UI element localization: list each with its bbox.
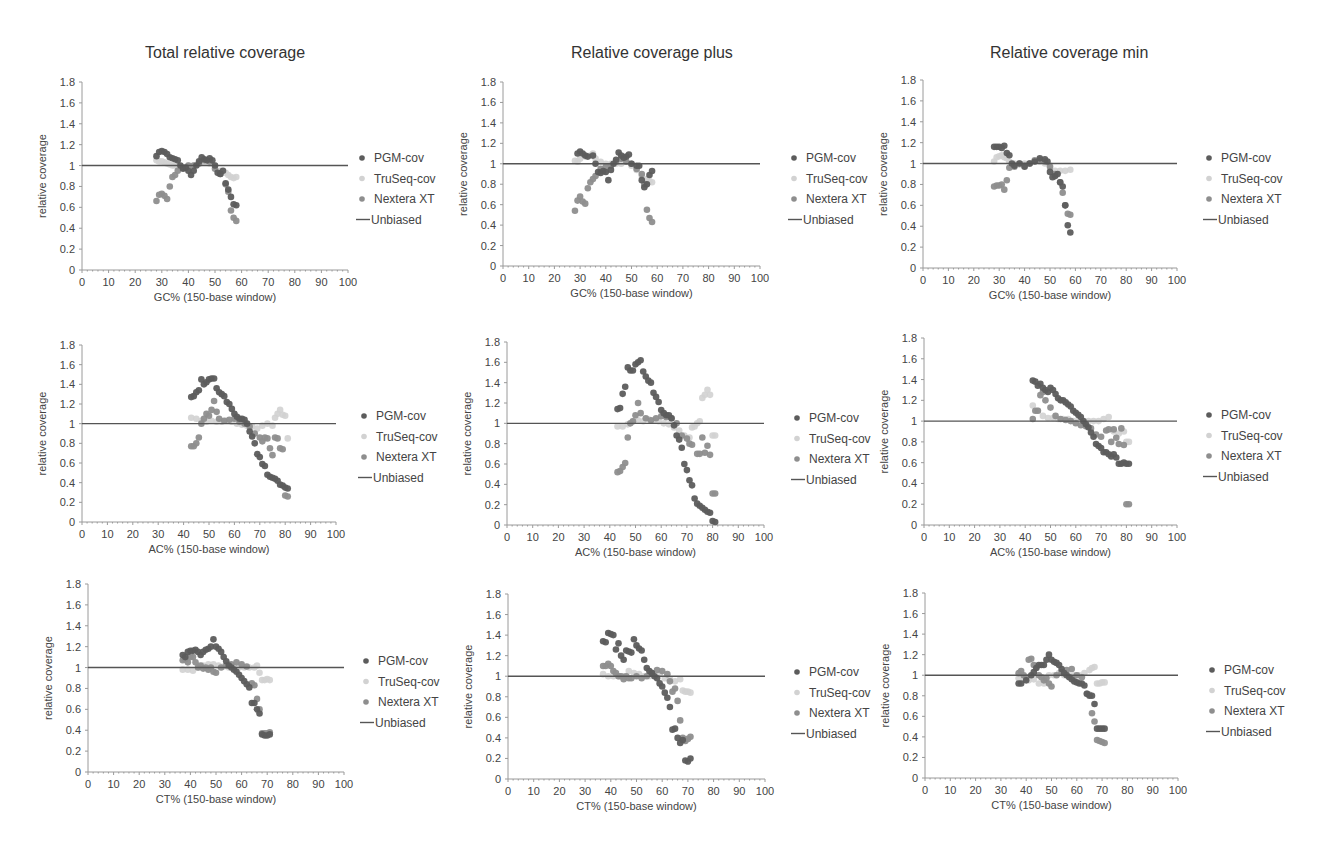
x-axis-label: CT% (150-base window): [156, 793, 276, 805]
y-tick-label: 1.2: [902, 394, 917, 406]
legend-label: PGM-cov: [1221, 151, 1271, 165]
y-tick-label: 0.8: [60, 180, 75, 192]
y-axis-label: relative coverage: [461, 392, 473, 476]
y-tick-label: 1.8: [66, 578, 81, 590]
y-tick-label: 0.4: [901, 220, 916, 232]
y-tick-label: 1.8: [901, 74, 916, 86]
x-axis-label: AC% (150-base window): [148, 543, 269, 555]
y-tick-label: 1.8: [481, 76, 496, 88]
x-tick-label: 60: [1069, 274, 1081, 286]
legend-marker-icon: [791, 155, 797, 161]
y-axis-label: relative coverage: [879, 644, 891, 728]
y-tick-label: 1.2: [903, 649, 918, 661]
y-tick-label: 1: [490, 158, 496, 170]
x-tick-label: 80: [1120, 274, 1132, 286]
y-tick-label: 1.4: [903, 628, 918, 640]
legend: PGM-covTruSeq-covNextera XTUnbiased: [788, 151, 868, 227]
y-axis-label: relative coverage: [457, 132, 469, 216]
x-tick-label: 20: [127, 528, 139, 540]
x-tick-label: 20: [552, 531, 564, 543]
y-tick-label: 1.8: [60, 76, 75, 88]
x-tick-label: 60: [235, 276, 247, 288]
x-tick-label: 40: [1019, 531, 1031, 543]
y-tick-label: 1.8: [486, 588, 501, 600]
x-tick-label: 0: [921, 531, 927, 543]
y-tick-label: 1: [69, 418, 75, 430]
x-tick-label: 80: [1121, 784, 1133, 796]
x-tick-label: 60: [228, 528, 240, 540]
legend: PGM-covTruSeq-covNextera XTUnbiased: [356, 151, 436, 227]
x-tick-label: 20: [968, 274, 980, 286]
y-tick-label: 1.6: [902, 353, 917, 365]
y-tick-label: 0: [495, 773, 501, 785]
x-tick-label: 90: [1147, 784, 1159, 796]
y-tick-label: 1.6: [903, 608, 918, 620]
chart-ct-min-plot: 00.20.40.60.811.21.41.61.801020304050607…: [879, 587, 1286, 811]
x-tick-label: 30: [156, 276, 168, 288]
y-tick-label: 0.4: [66, 724, 81, 736]
y-tick-label: 1.6: [66, 599, 81, 611]
x-tick-label: 20: [968, 531, 980, 543]
x-tick-label: 70: [261, 778, 273, 790]
x-tick-label: 60: [1071, 784, 1083, 796]
x-tick-label: 70: [677, 272, 689, 284]
legend-label: Unbiased: [373, 471, 424, 485]
y-tick-label: 0.2: [60, 496, 75, 508]
y-tick-label: 0.2: [902, 498, 917, 510]
legend-label: PGM-cov: [809, 665, 859, 679]
legend-label: Unbiased: [806, 473, 857, 487]
x-tick-label: 40: [177, 528, 189, 540]
x-tick-label: 90: [733, 785, 745, 797]
y-axis-label: relative coverage: [877, 132, 889, 216]
legend: PGM-covTruSeq-covNextera XTUnbiased: [360, 654, 440, 730]
x-tick-label: 10: [942, 274, 954, 286]
y-tick-label: 0.8: [903, 690, 918, 702]
legend-label: TruSeq-cov: [1221, 172, 1283, 186]
x-tick-label: 40: [182, 276, 194, 288]
y-tick-label: 1.2: [485, 397, 500, 409]
legend-label: PGM-cov: [809, 411, 859, 425]
y-tick-label: 0.2: [486, 752, 501, 764]
y-tick-label: 1.8: [902, 332, 917, 344]
x-tick-label: 70: [681, 531, 693, 543]
y-tick-label: 1.2: [486, 650, 501, 662]
y-tick-label: 1.4: [60, 118, 75, 130]
chart-gc-total-plot: 00.20.40.60.811.21.41.61.801020304050607…: [36, 76, 436, 303]
chart-gc-plus-plot: 00.20.40.60.811.21.41.61.801020304050607…: [457, 76, 868, 299]
legend-label: Unbiased: [1218, 470, 1269, 484]
y-tick-label: 0.6: [66, 703, 81, 715]
x-tick-label: 0: [79, 528, 85, 540]
legend-label: Nextera XT: [809, 452, 870, 466]
y-tick-label: 0.8: [481, 178, 496, 190]
y-tick-label: 0.8: [901, 178, 916, 190]
legend-marker-icon: [794, 690, 800, 696]
x-tick-label: 20: [129, 276, 141, 288]
x-tick-label: 0: [85, 778, 91, 790]
y-tick-label: 0.6: [901, 199, 916, 211]
series-pgm-cov: [600, 630, 694, 765]
legend-label: Unbiased: [1218, 213, 1269, 227]
y-tick-label: 0.2: [903, 751, 918, 763]
legend-label: TruSeq-cov: [1221, 429, 1283, 443]
y-tick-label: 1: [495, 670, 501, 682]
y-tick-label: 1: [494, 417, 500, 429]
y-tick-label: 1.2: [66, 641, 81, 653]
x-tick-label: 100: [756, 785, 774, 797]
x-tick-label: 30: [579, 785, 591, 797]
x-tick-label: 10: [523, 272, 535, 284]
legend-label: TruSeq-cov: [806, 172, 868, 186]
chart-ct-plus-plot: 00.20.40.60.811.21.41.61.801020304050607…: [462, 588, 871, 812]
legend-label: PGM-cov: [376, 409, 426, 423]
y-tick-label: 0.4: [60, 477, 75, 489]
y-tick-label: 1.2: [481, 137, 496, 149]
chart-ct-total-plot: 00.20.40.60.811.21.41.61.801020304050607…: [42, 578, 440, 805]
x-tick-label: 70: [1095, 531, 1107, 543]
y-tick-label: 0.8: [60, 437, 75, 449]
y-axis-label: relative coverage: [36, 134, 48, 218]
x-tick-label: 50: [1044, 531, 1056, 543]
y-tick-label: 0.2: [66, 745, 81, 757]
x-tick-label: 50: [1045, 784, 1057, 796]
x-tick-label: 60: [235, 778, 247, 790]
legend-label: Nextera XT: [1221, 192, 1282, 206]
legend-marker-icon: [359, 155, 365, 161]
